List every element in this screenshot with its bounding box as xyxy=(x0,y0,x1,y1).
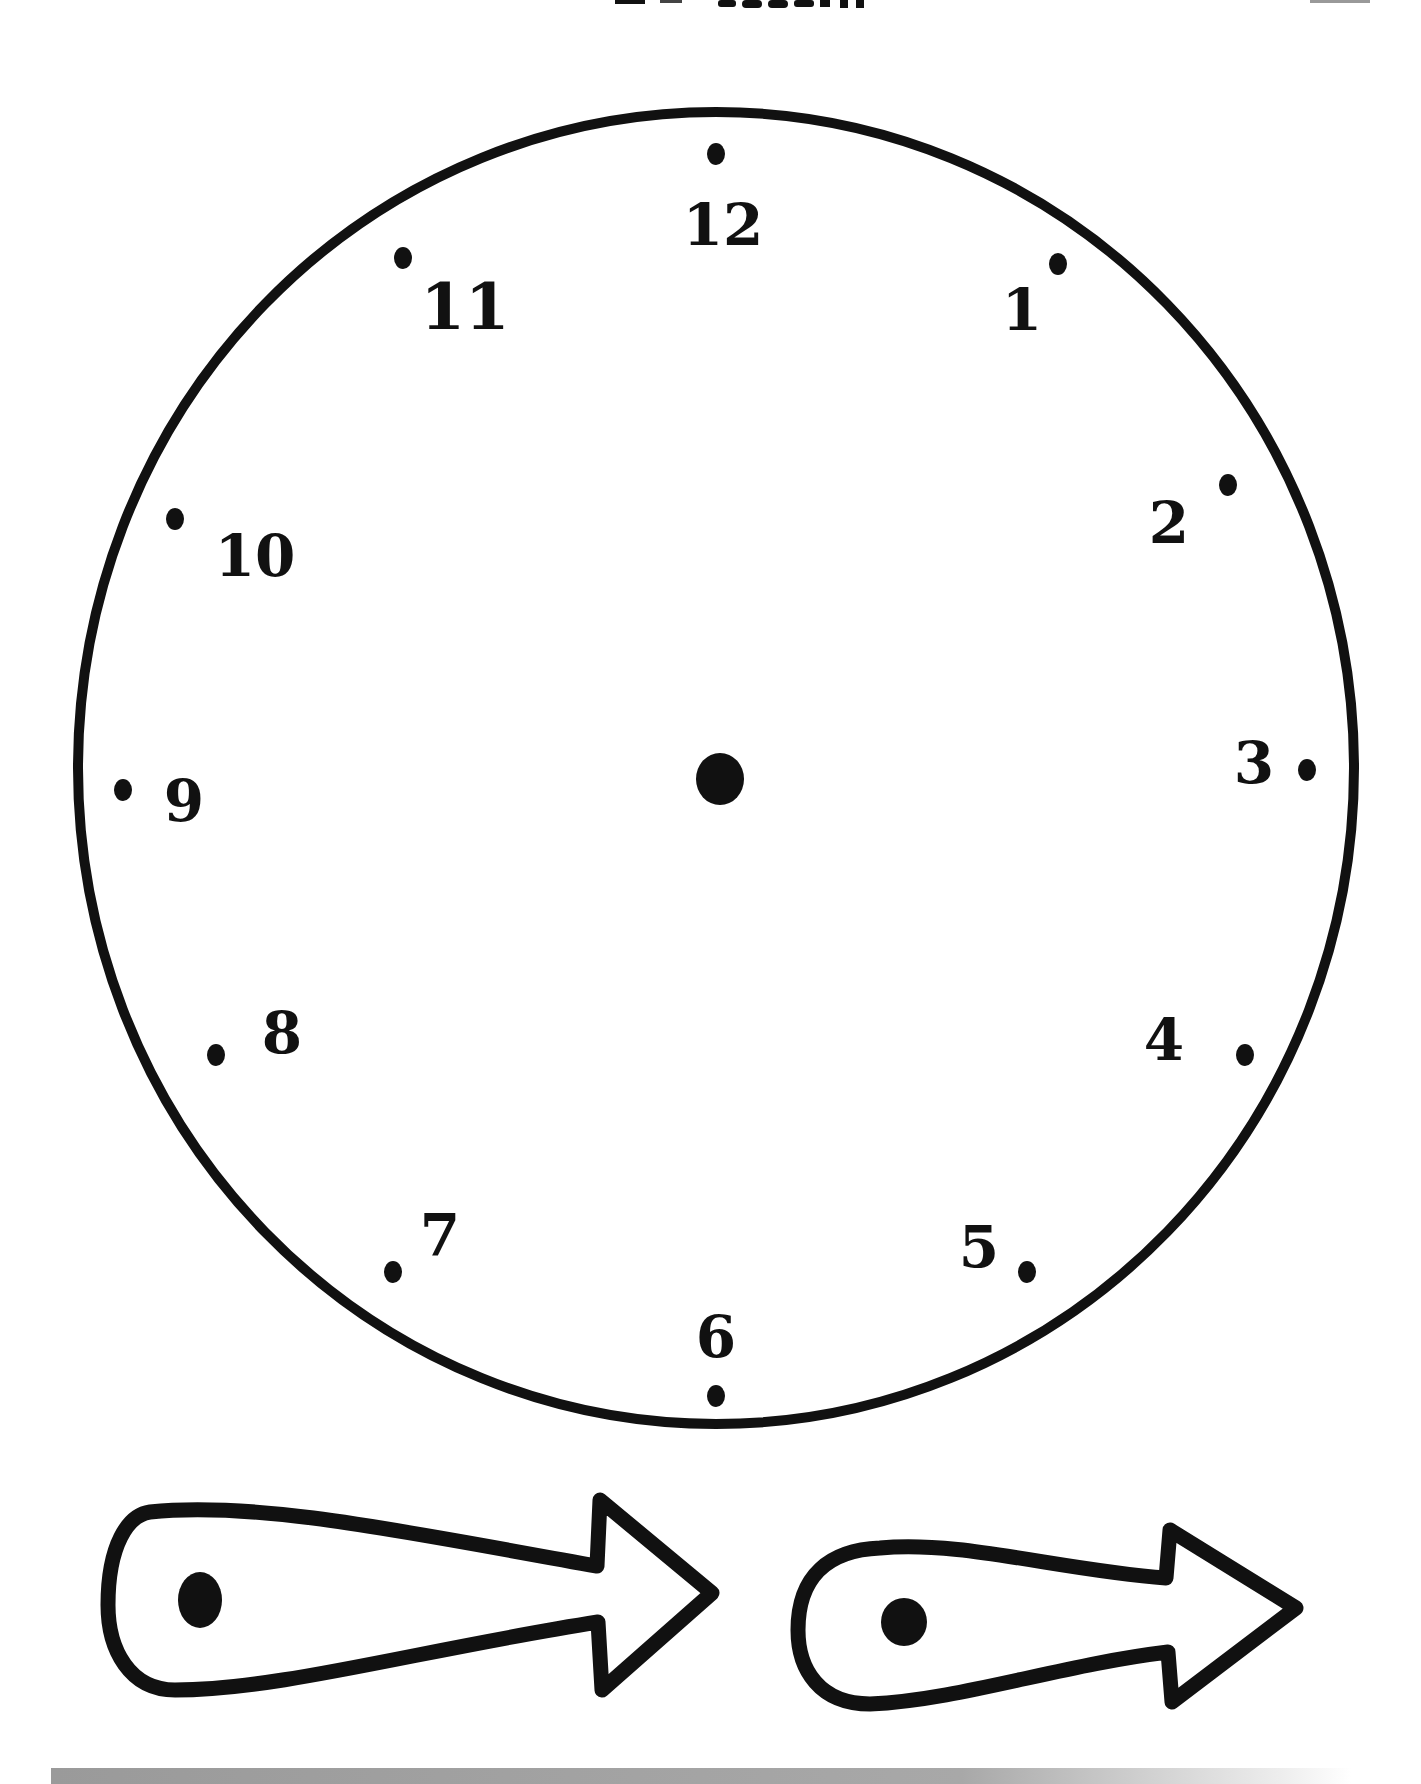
minute-hand-outline xyxy=(798,1530,1296,1704)
center-pivot-dot xyxy=(696,753,744,805)
hour-marker-dot xyxy=(1049,253,1067,275)
clock-numeral-11: 11 xyxy=(420,269,509,344)
hour-marker-dot xyxy=(707,143,725,165)
hour-marker-dot xyxy=(1298,759,1316,781)
clock-numeral-2: 2 xyxy=(1149,489,1189,557)
hour-marker-dot xyxy=(207,1044,225,1066)
clock-numeral-8: 8 xyxy=(262,999,302,1067)
clock-numeral-9: 9 xyxy=(164,767,204,835)
minute-hand-pivot-dot xyxy=(881,1598,927,1646)
hour-marker-dot xyxy=(707,1385,725,1407)
hour-hand-pivot-dot xyxy=(178,1572,222,1628)
hour-marker-dot xyxy=(1236,1044,1254,1066)
minute-hand-cutout[interactable] xyxy=(798,1530,1296,1704)
clock-template-page: 121234567891011 xyxy=(0,0,1421,1784)
clock-numeral-3: 3 xyxy=(1234,729,1274,797)
clock-drawing: 121234567891011 xyxy=(0,0,1421,1784)
clock-numeral-5: 5 xyxy=(959,1213,999,1281)
clock-numeral-4: 4 xyxy=(1144,1006,1184,1074)
hour-marker-dot xyxy=(166,508,184,530)
hour-marker-dot xyxy=(1018,1261,1036,1283)
clock-numeral-12: 12 xyxy=(683,191,764,259)
hour-marker-dot xyxy=(384,1261,402,1283)
clock-numeral-10: 10 xyxy=(215,522,296,590)
hour-marker-dot xyxy=(114,779,132,801)
cropped-title-fragment xyxy=(615,0,1370,8)
clock-numeral-6: 6 xyxy=(696,1303,736,1371)
hour-marker-dot xyxy=(1219,474,1237,496)
page-edge-gray-bar xyxy=(51,1768,1351,1784)
hour-hand-cutout[interactable] xyxy=(108,1500,712,1690)
clock-numeral-7: 7 xyxy=(420,1201,460,1269)
clock-numeral-1: 1 xyxy=(1002,276,1042,344)
hour-marker-dot xyxy=(394,247,412,269)
